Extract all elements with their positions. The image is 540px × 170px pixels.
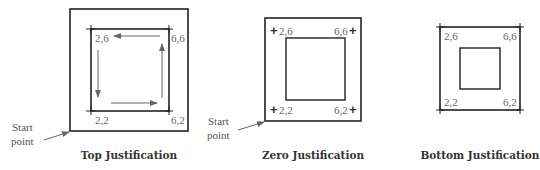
coord-label-tl: 2,6 (95, 32, 109, 44)
inner-square-rect (460, 48, 500, 89)
plus-marker-tl: + (270, 23, 278, 38)
coord-label-tr: 6,6 (334, 25, 348, 37)
plus-marker-br: + (349, 102, 357, 117)
panel-bottom-justification: 2,6 6,6 2,2 6,2 Bottom Justification (420, 23, 539, 161)
plus-marker-tr: + (349, 23, 357, 38)
start-point-label-line2: point (207, 129, 230, 141)
coord-label-tr: 6,6 (171, 32, 185, 44)
coord-label-br: 6,2 (334, 104, 348, 116)
start-point-label-line2: point (11, 135, 34, 147)
panel-zero-justification: + 2,6 6,6 + + 2,2 6,2 + Start point Zero… (207, 18, 364, 161)
plus-marker-bl: + (270, 102, 278, 117)
start-point-label-line1: Start (12, 121, 33, 133)
justification-figure: 2,6 6,6 2,2 6,2 Start point Top Justific… (0, 0, 540, 170)
coord-label-tl: 2,6 (444, 30, 458, 42)
coord-label-bl: 2,2 (279, 104, 293, 116)
coord-label-br: 6,2 (171, 114, 185, 126)
panel-top-justification: 2,6 6,6 2,2 6,2 Start point Top Justific… (11, 9, 188, 161)
outer-boundary-rect (70, 9, 188, 131)
coord-label-br: 6,2 (503, 96, 517, 108)
start-point-pointer-arrow-icon (44, 132, 69, 140)
direction-arrows (98, 36, 162, 103)
coord-label-tl: 2,6 (279, 25, 293, 37)
coord-label-bl: 2,2 (95, 114, 109, 126)
start-point-pointer-arrow-icon (238, 122, 264, 130)
caption-top-justification: Top Justification (81, 149, 178, 161)
coord-label-tr: 6,6 (503, 30, 517, 42)
caption-bottom-justification: Bottom Justification (420, 149, 539, 161)
start-point-label-line1: Start (208, 115, 229, 127)
caption-zero-justification: Zero Justification (262, 149, 365, 161)
coord-label-bl: 2,2 (444, 96, 458, 108)
inner-square-rect (286, 38, 345, 100)
